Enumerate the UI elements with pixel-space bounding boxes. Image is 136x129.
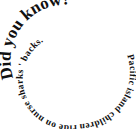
spiral-svg: Did you know? Pacific island children ri…	[0, 0, 136, 129]
body-path: Pacific island children ride on nurse sh…	[15, 35, 136, 129]
body-text: Pacific island children ride on nurse sh…	[15, 35, 136, 129]
